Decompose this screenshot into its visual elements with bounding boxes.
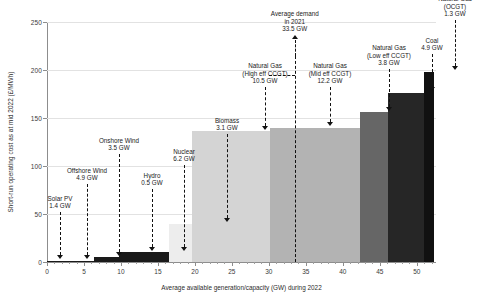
x-minor-tick xyxy=(395,262,396,264)
annotation-arrow-head xyxy=(386,107,392,111)
annotation-leader-line xyxy=(119,154,120,252)
x-minor-tick xyxy=(284,262,285,264)
annotation-line: 33.5 GW xyxy=(235,25,355,33)
average-demand-line xyxy=(295,56,296,262)
x-minor-tick xyxy=(69,262,70,264)
x-tick-label: 40 xyxy=(339,268,346,275)
y-tick-label: 0 xyxy=(38,259,42,266)
annotation-line: 0.5 GW xyxy=(92,179,212,187)
annotation-leader-line xyxy=(184,165,185,247)
x-minor-tick xyxy=(91,262,92,264)
bar-segment xyxy=(123,252,169,262)
x-tick-label: 5 xyxy=(82,268,86,275)
x-minor-tick xyxy=(54,262,55,264)
x-minor-tick xyxy=(114,262,115,264)
annotation-arrow-head xyxy=(224,218,230,222)
x-minor-tick xyxy=(372,262,373,264)
x-minor-tick xyxy=(432,262,433,264)
x-minor-tick xyxy=(365,262,366,264)
x-minor-tick xyxy=(254,262,255,264)
annotation-line: 6.2 GW xyxy=(124,155,244,163)
x-minor-tick xyxy=(151,262,152,264)
annotation-leader-line xyxy=(227,134,228,218)
x-tick-label: 35 xyxy=(302,268,309,275)
x-minor-tick xyxy=(99,262,100,264)
bar-segment xyxy=(169,224,192,262)
bar-segment xyxy=(388,93,424,262)
annotation-arrow-head xyxy=(116,252,122,256)
bar-segment xyxy=(424,72,434,262)
average-demand-arrow-head xyxy=(292,35,298,39)
x-minor-tick xyxy=(321,262,322,264)
annotation-leader-line xyxy=(265,87,266,126)
plot-area: 050100150200250 05101520253035404550 Sol… xyxy=(47,22,436,262)
x-tick xyxy=(47,262,48,266)
bar-segment xyxy=(94,257,120,262)
x-tick xyxy=(269,262,270,266)
annotation-arrow-head xyxy=(181,247,187,251)
x-minor-tick xyxy=(210,262,211,264)
x-minor-tick xyxy=(77,262,78,264)
bar-segment xyxy=(47,261,57,262)
annotation-line: Nuclear xyxy=(124,148,244,156)
x-minor-tick xyxy=(136,262,137,264)
annotation-label-hydro: Hydro0.5 GW xyxy=(92,172,212,187)
x-minor-tick xyxy=(298,262,299,264)
annotation-arrow-head xyxy=(262,126,268,130)
annotation-arrow-head xyxy=(429,87,435,91)
x-minor-tick xyxy=(143,262,144,264)
x-minor-tick xyxy=(106,262,107,264)
x-axis-title: Average available generation/capacity (G… xyxy=(47,284,436,291)
annotation-leader-line xyxy=(87,184,88,255)
annotation-line: Biomass xyxy=(167,117,287,125)
x-minor-tick xyxy=(173,262,174,264)
annotation-leader-line xyxy=(152,189,153,247)
y-tick-label: 200 xyxy=(31,67,42,74)
y-tick xyxy=(43,118,47,119)
x-minor-tick xyxy=(224,262,225,264)
annotation-line: 1.3 GW xyxy=(395,10,477,18)
x-tick xyxy=(232,262,233,266)
average-demand-connector xyxy=(269,75,295,76)
annotation-label-average-demand: Average demandin 202133.5 GW xyxy=(235,10,355,33)
y-axis-title: Short-run operating cost as at mid 2022 … xyxy=(7,22,19,262)
annotation-line: 12.2 GW xyxy=(270,77,390,85)
x-tick-label: 10 xyxy=(117,268,124,275)
y-axis-line xyxy=(47,22,48,262)
x-minor-tick xyxy=(291,262,292,264)
annotation-leader-line xyxy=(455,20,456,66)
x-tick-label: 45 xyxy=(376,268,383,275)
bar-segment xyxy=(57,261,93,262)
x-minor-tick xyxy=(247,262,248,264)
annotation-label-solar-pv: Solar PV1.4 GW xyxy=(0,195,120,210)
x-tick-label: 30 xyxy=(265,268,272,275)
x-tick-label: 25 xyxy=(228,268,235,275)
annotation-label-natural-gas-ocgt: Natural Gas(OCGT)1.3 GW xyxy=(395,0,477,18)
x-minor-tick xyxy=(217,262,218,264)
y-tick xyxy=(43,214,47,215)
x-tick xyxy=(84,262,85,266)
x-tick-label: 0 xyxy=(45,268,49,275)
annotation-line: Hydro xyxy=(92,172,212,180)
x-tick-label: 50 xyxy=(413,268,420,275)
x-tick xyxy=(343,262,344,266)
annotation-line: 4.9 GW xyxy=(372,44,477,52)
x-tick xyxy=(158,262,159,266)
x-minor-tick xyxy=(202,262,203,264)
x-minor-tick xyxy=(358,262,359,264)
x-tick xyxy=(417,262,418,266)
annotation-arrow-head xyxy=(84,255,90,259)
annotation-arrow-head xyxy=(57,255,63,259)
x-minor-tick xyxy=(350,262,351,264)
annotation-label-coal: Coal4.9 GW xyxy=(372,37,477,52)
x-tick xyxy=(380,262,381,266)
x-tick xyxy=(121,262,122,266)
x-tick xyxy=(306,262,307,266)
x-minor-tick xyxy=(276,262,277,264)
annotation-leader-line xyxy=(389,69,390,107)
annotation-leader-line xyxy=(60,212,61,255)
x-minor-tick xyxy=(165,262,166,264)
annotation-line: in 2021 xyxy=(235,18,355,26)
annotation-arrow-head xyxy=(149,247,155,251)
